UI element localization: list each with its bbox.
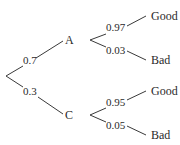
prob-label-c-good: 0.95 <box>106 96 126 108</box>
outcome-c-bad: Bad <box>151 128 170 142</box>
node-c: C <box>65 108 73 122</box>
c-vertex-edge <box>90 108 106 122</box>
branch-a: 0.7 A 0.97 Good 0.03 Bad <box>23 9 178 67</box>
prob-label-a-bad: 0.03 <box>106 44 126 56</box>
edge-a-good <box>127 16 146 26</box>
branch-c: 0.3 C 0.95 Good 0.05 Bad <box>23 84 178 142</box>
outcome-c-good: Good <box>151 84 178 98</box>
edge-c-good <box>127 91 146 100</box>
edge-to-c <box>38 97 63 114</box>
a-vertex-edge <box>90 34 106 47</box>
prob-label-a: 0.7 <box>23 54 37 66</box>
prob-label-c-bad: 0.05 <box>106 119 126 131</box>
edge-c-bad <box>127 126 146 135</box>
edge-to-a <box>36 41 63 58</box>
edge-a-bad <box>127 51 146 60</box>
prob-label-a-good: 0.97 <box>106 21 126 33</box>
prob-label-c: 0.3 <box>23 85 37 97</box>
probability-tree-diagram: 0.7 A 0.97 Good 0.03 Bad 0.3 C 0.95 Good… <box>0 0 180 145</box>
outcome-a-good: Good <box>151 9 178 23</box>
outcome-a-bad: Bad <box>151 53 170 67</box>
node-a: A <box>65 33 74 47</box>
root-vertex-edge <box>6 66 23 87</box>
root-split <box>6 66 23 87</box>
